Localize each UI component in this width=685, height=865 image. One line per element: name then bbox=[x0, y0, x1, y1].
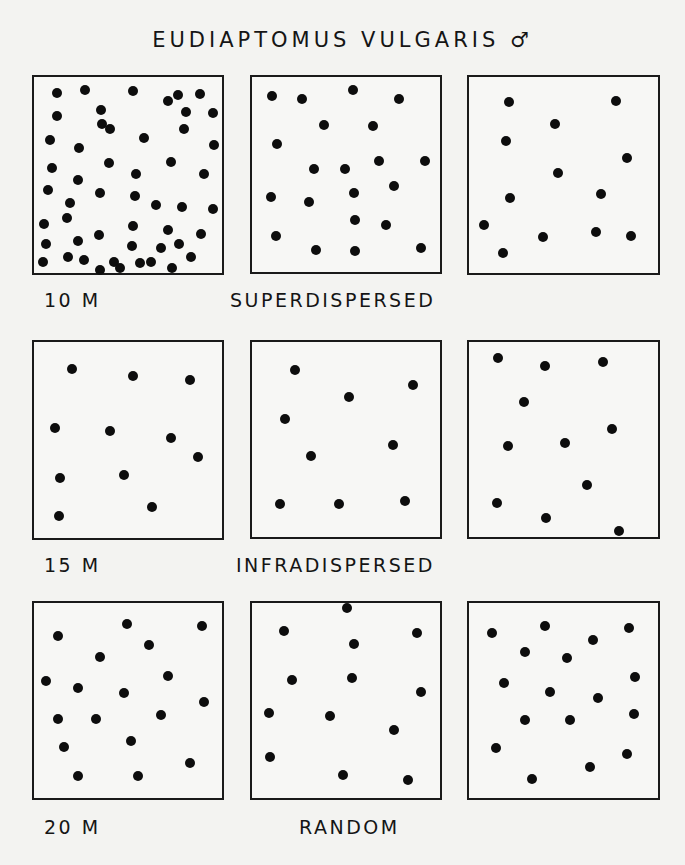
organism-dot bbox=[199, 169, 209, 179]
organism-dot bbox=[115, 263, 125, 273]
organism-dot bbox=[73, 236, 83, 246]
organism-dot bbox=[349, 639, 359, 649]
organism-dot bbox=[593, 693, 603, 703]
organism-dot bbox=[53, 631, 63, 641]
organism-dot bbox=[144, 640, 154, 650]
organism-dot bbox=[199, 697, 209, 707]
organism-dot bbox=[487, 628, 497, 638]
organism-dot bbox=[126, 736, 136, 746]
organism-dot bbox=[492, 498, 502, 508]
organism-dot bbox=[503, 441, 513, 451]
depth-label: 15 M bbox=[44, 554, 101, 576]
organism-dot bbox=[104, 158, 114, 168]
organism-dot bbox=[95, 265, 105, 275]
organism-dot bbox=[208, 204, 218, 214]
dispersion-pattern-label: SUPERDISPERSED bbox=[230, 289, 435, 311]
organism-dot bbox=[412, 628, 422, 638]
organism-dot bbox=[598, 357, 608, 367]
organism-dot bbox=[334, 499, 344, 509]
organism-dot bbox=[541, 513, 551, 523]
organism-dot bbox=[591, 227, 601, 237]
organism-dot bbox=[73, 683, 83, 693]
organism-dot bbox=[585, 762, 595, 772]
organism-dot bbox=[130, 191, 140, 201]
organism-dot bbox=[174, 239, 184, 249]
organism-dot bbox=[527, 774, 537, 784]
organism-dot bbox=[95, 652, 105, 662]
organism-dot bbox=[389, 181, 399, 191]
organism-dot bbox=[560, 438, 570, 448]
organism-dot bbox=[368, 121, 378, 131]
organism-dot bbox=[265, 752, 275, 762]
organism-dot bbox=[304, 197, 314, 207]
organism-dot bbox=[565, 715, 575, 725]
organism-dot bbox=[374, 156, 384, 166]
organism-dot bbox=[39, 219, 49, 229]
organism-dot bbox=[209, 140, 219, 150]
organism-dot bbox=[275, 499, 285, 509]
organism-dot bbox=[47, 163, 57, 173]
organism-dot bbox=[79, 255, 89, 265]
organism-dot bbox=[105, 426, 115, 436]
organism-dot bbox=[264, 708, 274, 718]
organism-dot bbox=[52, 88, 62, 98]
organism-dot bbox=[344, 392, 354, 402]
organism-dot bbox=[167, 263, 177, 273]
organism-dot bbox=[311, 245, 321, 255]
dispersion-pattern-label: RANDOM bbox=[299, 816, 400, 838]
organism-dot bbox=[41, 239, 51, 249]
organism-dot bbox=[342, 603, 352, 613]
organism-dot bbox=[63, 252, 73, 262]
organism-dot bbox=[196, 229, 206, 239]
organism-dot bbox=[309, 164, 319, 174]
organism-dot bbox=[611, 96, 621, 106]
organism-dot bbox=[128, 371, 138, 381]
organism-dot bbox=[267, 91, 277, 101]
organism-dot bbox=[504, 97, 514, 107]
organism-dot bbox=[338, 770, 348, 780]
organism-dot bbox=[147, 502, 157, 512]
organism-dot bbox=[306, 451, 316, 461]
organism-dot bbox=[80, 85, 90, 95]
organism-dot bbox=[626, 231, 636, 241]
organism-dot bbox=[493, 353, 503, 363]
organism-dot bbox=[416, 687, 426, 697]
organism-dot bbox=[67, 364, 77, 374]
organism-dot bbox=[287, 675, 297, 685]
organism-dot bbox=[348, 85, 358, 95]
sample-box bbox=[250, 340, 442, 539]
organism-dot bbox=[163, 96, 173, 106]
organism-dot bbox=[146, 257, 156, 267]
organism-dot bbox=[135, 258, 145, 268]
organism-dot bbox=[491, 743, 501, 753]
sample-box bbox=[250, 75, 442, 274]
organism-dot bbox=[340, 164, 350, 174]
organism-dot bbox=[420, 156, 430, 166]
organism-dot bbox=[520, 715, 530, 725]
organism-dot bbox=[173, 90, 183, 100]
organism-dot bbox=[582, 480, 592, 490]
organism-dot bbox=[128, 86, 138, 96]
organism-dot bbox=[400, 496, 410, 506]
organism-dot bbox=[347, 673, 357, 683]
organism-dot bbox=[127, 241, 137, 251]
organism-dot bbox=[540, 361, 550, 371]
depth-label: 20 M bbox=[44, 816, 101, 838]
organism-dot bbox=[163, 225, 173, 235]
organism-dot bbox=[271, 231, 281, 241]
organism-dot bbox=[193, 452, 203, 462]
organism-dot bbox=[520, 647, 530, 657]
organism-dot bbox=[596, 189, 606, 199]
organism-dot bbox=[629, 709, 639, 719]
organism-dot bbox=[55, 473, 65, 483]
organism-dot bbox=[545, 687, 555, 697]
organism-dot bbox=[91, 714, 101, 724]
organism-dot bbox=[185, 758, 195, 768]
organism-dot bbox=[622, 153, 632, 163]
organism-dot bbox=[349, 188, 359, 198]
organism-dot bbox=[519, 397, 529, 407]
organism-dot bbox=[96, 105, 106, 115]
organism-dot bbox=[350, 246, 360, 256]
organism-dot bbox=[550, 119, 560, 129]
organism-dot bbox=[177, 202, 187, 212]
